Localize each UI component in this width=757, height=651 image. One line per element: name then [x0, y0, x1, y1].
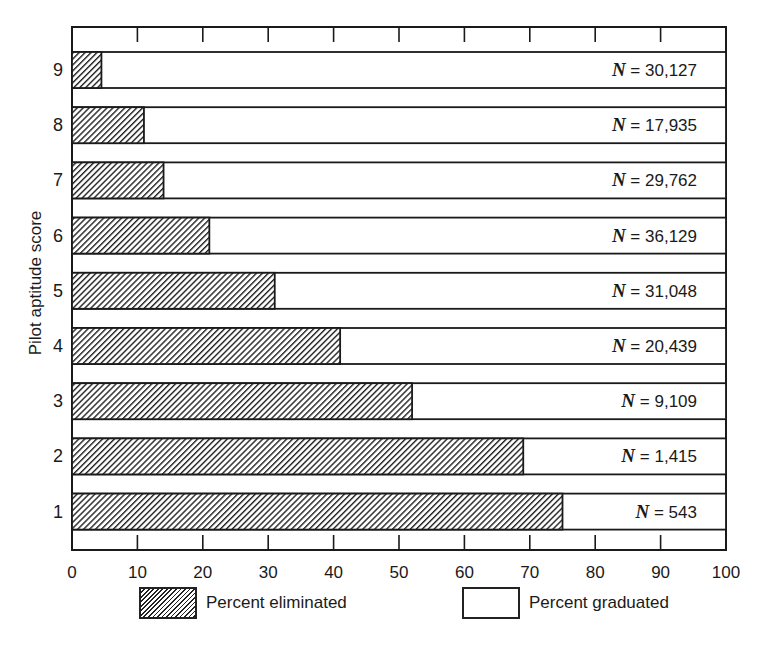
legend-label-eliminated: Percent eliminated [206, 593, 347, 613]
eliminated-segment [72, 494, 563, 530]
y-tick-label: 2 [53, 446, 63, 466]
y-tick-label: 5 [53, 281, 63, 301]
bar-row-score-6: N = 36,129 [72, 218, 726, 254]
y-tick-label: 6 [53, 226, 63, 246]
white-swatch-icon [462, 587, 520, 619]
x-tick-label: 90 [651, 563, 670, 582]
n-annotation: N = 17,935 [611, 114, 697, 135]
hatched-swatch-icon [139, 587, 197, 619]
x-tick-label: 60 [455, 563, 474, 582]
x-tick-labels: 0102030405060708090100 [67, 563, 740, 582]
bar-chart: N = 30,127N = 17,935N = 29,762N = 36,129… [0, 0, 757, 651]
y-tick-label: 3 [53, 391, 63, 411]
n-annotation: N = 543 [635, 501, 697, 522]
bar-row-score-4: N = 20,439 [72, 328, 726, 364]
y-tick-label: 7 [53, 170, 63, 190]
y-tick-label: 9 [53, 60, 63, 80]
x-tick-label: 50 [390, 563, 409, 582]
bar-row-score-1: N = 543 [72, 494, 726, 530]
y-tick-label: 1 [53, 502, 63, 522]
n-annotation: N = 31,048 [611, 280, 697, 301]
y-tick-labels: 987654321 [53, 60, 63, 522]
bar-row-score-5: N = 31,048 [72, 273, 726, 309]
bar-row-score-2: N = 1,415 [72, 438, 726, 474]
x-tick-label: 20 [193, 563, 212, 582]
x-tick-label: 0 [67, 563, 76, 582]
y-tick-label: 8 [53, 115, 63, 135]
n-annotation: N = 30,127 [611, 59, 697, 80]
eliminated-segment [72, 328, 340, 364]
y-axis-label: Pilot aptitude score [26, 211, 46, 356]
y-tick-label: 4 [53, 336, 63, 356]
x-tick-label: 100 [712, 563, 740, 582]
eliminated-segment [72, 438, 523, 474]
eliminated-segment [72, 162, 164, 198]
n-annotation: N = 36,129 [611, 225, 697, 246]
x-tick-label: 40 [324, 563, 343, 582]
eliminated-segment [72, 52, 101, 88]
bar-row-score-9: N = 30,127 [72, 52, 726, 88]
n-annotation: N = 1,415 [620, 445, 697, 466]
n-annotation: N = 9,109 [620, 390, 697, 411]
n-annotation: N = 20,439 [611, 335, 697, 356]
legend-item-eliminated: Percent eliminated [139, 587, 347, 619]
legend-label-graduated: Percent graduated [529, 593, 669, 613]
eliminated-segment [72, 218, 209, 254]
bars: N = 30,127N = 17,935N = 29,762N = 36,129… [72, 52, 726, 530]
n-annotation: N = 29,762 [611, 169, 697, 190]
eliminated-segment [72, 107, 144, 143]
legend-item-graduated: Percent graduated [462, 587, 669, 619]
eliminated-segment [72, 383, 412, 419]
eliminated-segment [72, 273, 275, 309]
x-tick-label: 70 [520, 563, 539, 582]
bar-row-score-7: N = 29,762 [72, 162, 726, 198]
bar-row-score-8: N = 17,935 [72, 107, 726, 143]
x-tick-label: 80 [586, 563, 605, 582]
x-tick-label: 10 [128, 563, 147, 582]
bar-row-score-3: N = 9,109 [72, 383, 726, 419]
x-tick-label: 30 [259, 563, 278, 582]
